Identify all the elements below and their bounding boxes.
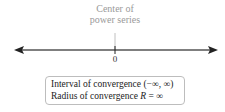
radius-of-convergence: Radius of convergence R = ∞ [51, 91, 184, 103]
radius-prefix: Radius of convergence [51, 91, 140, 101]
radius-value: = ∞ [146, 91, 163, 101]
interval-of-convergence: Interval of convergence (−∞, ∞) [51, 79, 184, 91]
convergence-info-box: Interval of convergence (−∞, ∞) Radius o… [45, 76, 185, 105]
zero-tick-label: 0 [110, 54, 120, 64]
